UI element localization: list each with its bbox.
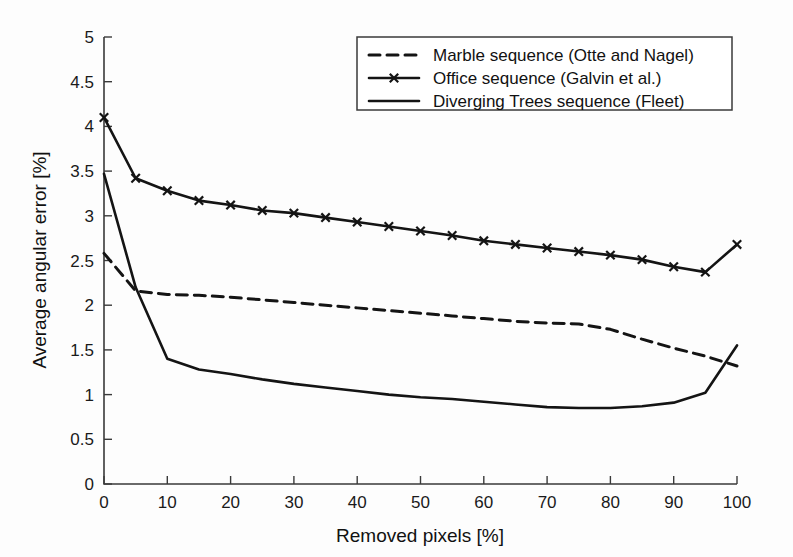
y-tick-label: 2 [85, 296, 94, 315]
y-tick-label: 3 [85, 207, 94, 226]
x-tick-label: 80 [601, 493, 620, 512]
legend-label-1: Office sequence (Galvin et al.) [433, 69, 661, 88]
x-tick-label: 20 [221, 493, 240, 512]
legend-label-2: Diverging Trees sequence (Fleet) [433, 92, 684, 111]
y-tick-label: 4 [85, 117, 94, 136]
y-axis-title: Average angular error [%] [29, 151, 50, 368]
chart-figure: 00.511.522.533.544.55 010203040506070809… [0, 0, 793, 557]
y-tick-label: 0.5 [70, 430, 94, 449]
chart-legend: Marble sequence (Otte and Nagel)Office s… [357, 37, 732, 111]
y-tick-label: 1.5 [70, 341, 94, 360]
x-tick-label: 90 [664, 493, 683, 512]
x-axis-title: Removed pixels [%] [336, 525, 504, 546]
x-tick-label: 60 [474, 493, 493, 512]
x-tick-label: 30 [284, 493, 303, 512]
y-tick-label: 2.5 [70, 252, 94, 271]
legend-label-0: Marble sequence (Otte and Nagel) [433, 46, 694, 65]
y-tick-label: 4.5 [70, 73, 94, 92]
x-tick-label: 50 [411, 493, 430, 512]
x-tick-label: 70 [538, 493, 557, 512]
y-tick-label: 0 [85, 475, 94, 494]
x-tick-label: 40 [348, 493, 367, 512]
y-tick-label: 5 [85, 28, 94, 47]
y-tick-label: 3.5 [70, 162, 94, 181]
angular-error-line-chart: 00.511.522.533.544.55 010203040506070809… [0, 0, 793, 557]
x-tick-label: 100 [723, 493, 751, 512]
x-tick-label: 10 [158, 493, 177, 512]
x-tick-label: 0 [99, 493, 108, 512]
y-tick-label: 1 [85, 386, 94, 405]
